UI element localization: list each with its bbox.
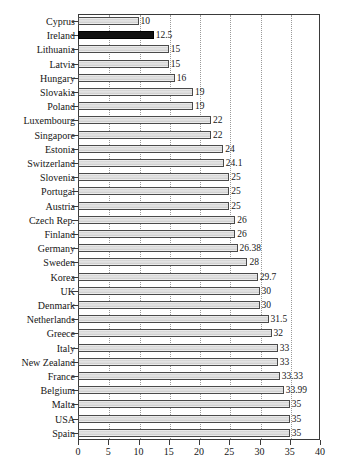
bar: [78, 216, 235, 224]
bar-value-label: 15: [171, 59, 181, 69]
bar: [78, 415, 290, 423]
x-axis-tick: [108, 440, 109, 445]
bar-row: Luxembourg22: [0, 113, 351, 127]
bar-row: Netherlands31.5: [0, 312, 351, 326]
category-label: Czech Rep.: [29, 214, 75, 225]
bar-value-label: 35: [292, 414, 302, 424]
bar: [78, 102, 193, 110]
x-axis-tick-label: 35: [285, 446, 295, 457]
bar-value-label: 26.38: [240, 243, 261, 253]
x-axis-tick-label: 40: [315, 446, 325, 457]
bar-value-label: 29.7: [260, 272, 277, 282]
x-axis-tick-label: 20: [194, 446, 204, 457]
bar-rows: Cyprus10Ireland12.5Lithuania15Latvia15Hu…: [0, 14, 351, 440]
x-axis-tick-label: 30: [255, 446, 265, 457]
bar-row: Czech Rep.26: [0, 213, 351, 227]
bar-value-label: 30: [262, 300, 272, 310]
bar: [78, 60, 169, 68]
category-label: Denmark: [38, 300, 75, 311]
bar: [78, 187, 229, 195]
bar: [78, 88, 193, 96]
bar-value-label: 31.5: [271, 314, 288, 324]
bar-value-label: 28: [249, 257, 259, 267]
category-label: Sweden: [43, 257, 75, 268]
bar-value-label: 19: [195, 101, 205, 111]
bar-value-label: 25: [231, 172, 241, 182]
x-axis-tick: [169, 440, 170, 445]
bar-value-label: 10: [141, 16, 151, 26]
x-axis-tick-label: 5: [106, 446, 111, 457]
bar-row: Belgium33.99: [0, 383, 351, 397]
bar-row: Austria25: [0, 199, 351, 213]
bar-row: Estonia24: [0, 142, 351, 156]
category-label: Belgium: [41, 385, 75, 396]
bar-value-label: 32: [274, 328, 284, 338]
category-label: Cyprus: [46, 16, 75, 27]
bar: [78, 287, 260, 295]
bar: [78, 31, 154, 39]
bar-row: Ireland12.5: [0, 28, 351, 42]
category-label: Ireland: [47, 30, 75, 41]
bar-value-label: 19: [195, 87, 205, 97]
bar: [78, 17, 139, 25]
x-axis: 0510152025303540: [0, 440, 351, 464]
bar-row: Spain35: [0, 426, 351, 440]
bar-value-label: 24: [225, 144, 235, 154]
bar: [78, 372, 280, 380]
bar-row: Korea29.7: [0, 270, 351, 284]
x-axis-tick: [260, 440, 261, 445]
bar: [78, 145, 223, 153]
bar-row: Italy33: [0, 341, 351, 355]
category-label: Luxembourg: [24, 115, 75, 126]
bar: [78, 173, 229, 181]
bar-value-label: 35: [292, 399, 302, 409]
bar-row: Portugal25: [0, 184, 351, 198]
bar: [78, 244, 238, 252]
category-label: Singapore: [34, 129, 75, 140]
bar: [78, 301, 260, 309]
bar: [78, 159, 224, 167]
bar-row: Slovakia19: [0, 85, 351, 99]
x-axis-tick: [139, 440, 140, 445]
bar-row: Greece32: [0, 326, 351, 340]
bar: [78, 273, 258, 281]
bar-row: Latvia15: [0, 57, 351, 71]
category-label: Slovenia: [40, 172, 75, 183]
category-label: Switzerland: [27, 158, 75, 169]
x-axis-tick: [199, 440, 200, 445]
category-label: Germany: [38, 243, 75, 254]
bar-row: Cyprus10: [0, 14, 351, 28]
category-label: Hungary: [40, 72, 75, 83]
bar-row: USA35: [0, 412, 351, 426]
x-axis-tick-label: 10: [134, 446, 144, 457]
bar-value-label: 25: [231, 186, 241, 196]
bar: [78, 329, 272, 337]
bar-value-label: 30: [262, 286, 272, 296]
bar: [78, 45, 169, 53]
bar-row: Poland19: [0, 99, 351, 113]
bar-row: Germany26.38: [0, 241, 351, 255]
bar-value-label: 24.1: [226, 158, 243, 168]
bar-value-label: 33.33: [282, 371, 303, 381]
bar-row: UK30: [0, 284, 351, 298]
bar: [78, 230, 235, 238]
bar-row: Sweden28: [0, 255, 351, 269]
x-axis-tick: [78, 440, 79, 445]
bar-row: Slovenia25: [0, 170, 351, 184]
bar: [78, 400, 290, 408]
bar: [78, 202, 229, 210]
bar-row: France33.33: [0, 369, 351, 383]
category-label: Netherlands: [27, 314, 75, 325]
x-axis-tick: [229, 440, 230, 445]
bar-value-label: 12.5: [156, 30, 173, 40]
bar-value-label: 22: [213, 115, 223, 125]
bar-value-label: 35: [292, 428, 302, 438]
x-axis-tick: [290, 440, 291, 445]
bar: [78, 116, 211, 124]
bar-value-label: 25: [231, 201, 241, 211]
bar-row: Switzerland24.1: [0, 156, 351, 170]
category-label: Lithuania: [37, 44, 75, 55]
bar-value-label: 16: [177, 73, 187, 83]
x-axis-tick-label: 25: [224, 446, 234, 457]
category-label: Portugal: [41, 186, 75, 197]
